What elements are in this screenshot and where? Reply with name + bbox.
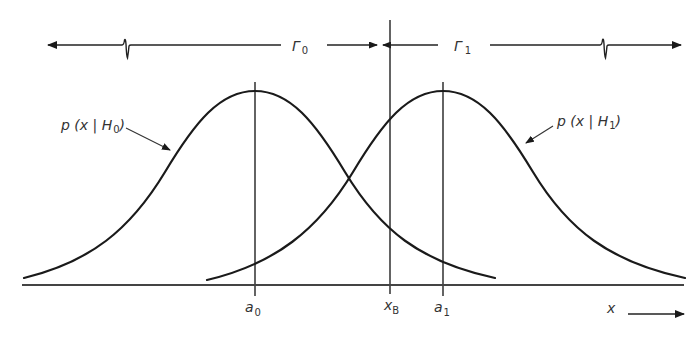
gamma0-label: Γ0: [292, 38, 308, 56]
gamma1-region-arrow: [383, 39, 681, 58]
axis-label-x: x: [606, 300, 616, 316]
axis-break-icon: [600, 39, 609, 58]
tick-label-xB: xB: [383, 297, 399, 316]
tick-label-a0: a0: [245, 299, 261, 318]
leader-arrow-h1: [526, 126, 553, 143]
gamma0-region-arrow: [48, 40, 377, 59]
tick-label-a1: a1: [434, 299, 450, 318]
decision-regions-diagram: Γ0 Γ1 p (x | H0) p (x | H1) a0 xB a1 x: [0, 0, 699, 337]
axis-break-icon: [122, 40, 131, 59]
label-p-x-given-h0: p (x | H0): [60, 117, 125, 135]
label-p-x-given-h1: p (x | H1): [556, 113, 621, 131]
leader-arrow-h0: [126, 128, 170, 150]
gamma1-label: Γ1: [454, 38, 471, 56]
